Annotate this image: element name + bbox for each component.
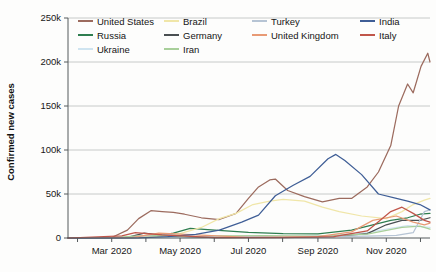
y-tick-label: 100k [40,144,61,155]
legend-swatch-icon [164,48,179,50]
legend-label: Germany [183,30,222,41]
legend-label: United States [97,16,154,27]
legend-item[interactable]: Turkey [252,16,360,27]
x-tick-label: Jul 2020 [230,245,266,256]
y-tick-label: 200k [40,56,61,67]
series-line [68,218,430,238]
covid-new-cases-line-chart: 050k100k150k200k250k Mar 2020May 2020Jul… [0,0,436,272]
legend-swatch-icon [164,20,179,22]
y-tick-labels: 050k100k150k200k250k [40,12,61,243]
legend-item[interactable]: Germany [164,30,252,41]
y-axis-title: Confirmed new cases [5,83,16,181]
x-tick-label: Mar 2020 [92,245,132,256]
legend-item[interactable]: India [360,16,424,27]
legend-swatch-icon [252,20,267,22]
legend-swatch-icon [360,20,375,22]
series-line [68,53,430,238]
y-tick-label: 50k [46,188,62,199]
legend-label: India [379,16,400,27]
y-tick-label: 250k [40,12,61,23]
series-lines [68,53,430,238]
legend-item[interactable]: Italy [360,30,424,41]
legend-swatch-icon [78,20,93,22]
legend-swatch-icon [164,34,179,36]
legend-item[interactable]: United Kingdom [252,30,360,41]
legend-swatch-icon [360,34,375,36]
chart-legend: United States Brazil Turkey India Russia… [78,14,430,56]
x-tick-labels: Mar 2020May 2020Jul 2020Sep 2020Nov 2020 [92,245,407,256]
x-tick-label: Nov 2020 [366,245,407,256]
series-line [68,154,430,238]
legend-item[interactable]: Ukraine [78,44,164,55]
x-tick-label: May 2020 [159,245,201,256]
legend-swatch-icon [78,48,93,50]
legend-item[interactable]: Iran [164,44,252,55]
legend-label: Russia [97,30,126,41]
y-tick-label: 150k [40,100,61,111]
legend-label: Turkey [271,16,300,27]
legend-label: United Kingdom [271,30,339,41]
legend-item[interactable]: Russia [78,30,164,41]
legend-swatch-icon [78,34,93,36]
y-tick-label: 0 [56,232,61,243]
legend-label: Italy [379,30,396,41]
series-line [68,207,430,238]
legend-label: Iran [183,44,199,55]
legend-item[interactable]: Brazil [164,16,252,27]
legend-item[interactable]: United States [78,16,164,27]
x-tick-label: Sep 2020 [298,245,339,256]
legend-label: Brazil [183,16,207,27]
legend-swatch-icon [252,34,267,36]
legend-label: Ukraine [97,44,130,55]
